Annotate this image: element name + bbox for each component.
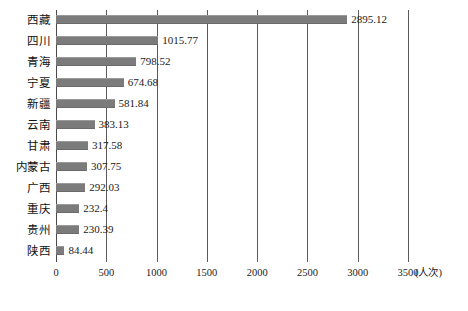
bar [56,15,347,24]
bar-row: 581.84 [56,94,468,115]
x-tick-label: 1500 [196,266,217,280]
bar-row: 798.52 [56,52,468,73]
category-axis: 西藏四川青海宁夏新疆云南甘肃内蒙古广西重庆贵州陕西 [0,10,50,262]
bar [56,141,88,150]
category-label: 宁夏 [0,73,50,94]
category-label: 甘肃 [0,136,50,157]
bar [56,162,87,171]
category-label: 青海 [0,52,50,73]
bar-value-label: 798.52 [140,51,170,72]
bar-value-label: 307.75 [91,156,121,177]
x-tick-label: 1000 [146,266,167,280]
x-axis-ticks: 0500100015002000250030003500(人次) [0,266,468,286]
x-tick-label: 500 [98,266,114,280]
category-label: 贵州 [0,220,50,241]
bar-value-label: 292.03 [89,177,119,198]
x-tick-label: 0 [53,266,58,280]
category-label: 四川 [0,31,50,52]
bar-row: 84.44 [56,241,468,262]
x-tick-label: 2500 [297,266,318,280]
bar [56,183,85,192]
bar-value-label: 1015.77 [162,30,198,51]
bar [56,99,115,108]
category-label: 内蒙古 [0,157,50,178]
x-tick-label: 2000 [247,266,268,280]
bar-chart: 西藏四川青海宁夏新疆云南甘肃内蒙古广西重庆贵州陕西 2895.121015.77… [0,0,468,311]
category-label: 重庆 [0,199,50,220]
bar-value-label: 230.39 [83,219,113,240]
category-label: 云南 [0,115,50,136]
bar-row: 292.03 [56,178,468,199]
x-axis-unit-label: (人次) [415,266,442,280]
category-label: 西藏 [0,10,50,31]
bar-row: 232.4 [56,199,468,220]
bar-value-label: 232.4 [83,198,108,219]
bar-value-label: 674.68 [128,72,158,93]
bar-series: 2895.121015.77798.52674.68581.84383.1331… [56,10,468,262]
bar [56,120,95,129]
bar-row: 307.75 [56,157,468,178]
bar [56,204,79,213]
x-tick-label: 3000 [347,266,368,280]
bar-row: 383.13 [56,115,468,136]
category-label: 新疆 [0,94,50,115]
category-label: 广西 [0,178,50,199]
bar-row: 2895.12 [56,10,468,31]
bar-value-label: 2895.12 [351,9,387,30]
bar-row: 1015.77 [56,31,468,52]
bar [56,36,158,45]
bar [56,78,124,87]
bar-row: 230.39 [56,220,468,241]
bar-value-label: 383.13 [99,114,129,135]
bar-row: 317.58 [56,136,468,157]
bar-value-label: 84.44 [68,240,93,261]
bar [56,225,79,234]
bar [56,57,136,66]
bar [56,246,64,255]
bar-row: 674.68 [56,73,468,94]
category-label: 陕西 [0,241,50,262]
bar-value-label: 581.84 [119,93,149,114]
bar-value-label: 317.58 [92,135,122,156]
